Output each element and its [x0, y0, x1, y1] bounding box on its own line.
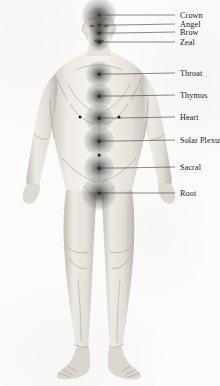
chakra-label-crown: Crown	[180, 11, 203, 20]
chakra-label-heart: Heart	[180, 113, 199, 122]
nipple-mark	[79, 116, 82, 119]
navel-mark	[98, 154, 101, 157]
chakra-diagram-page: CrownAngelBrowZealThroatThymusHeartSolar…	[0, 0, 220, 386]
chakra-label-sacral: Sacral	[180, 163, 201, 172]
chakra-label-throat: Throat	[180, 69, 202, 78]
figure-body-mass	[23, 8, 176, 379]
chakra-label-zeal: Zeal	[180, 38, 195, 47]
chakra-label-root: Root	[180, 189, 196, 198]
chakra-label-thymus: Thymus	[180, 91, 207, 100]
nipple-mark	[118, 116, 121, 119]
chakra-label-brow: Brow	[180, 28, 199, 37]
chakra-label-solar-plexus: Solar Plexus	[180, 136, 220, 145]
